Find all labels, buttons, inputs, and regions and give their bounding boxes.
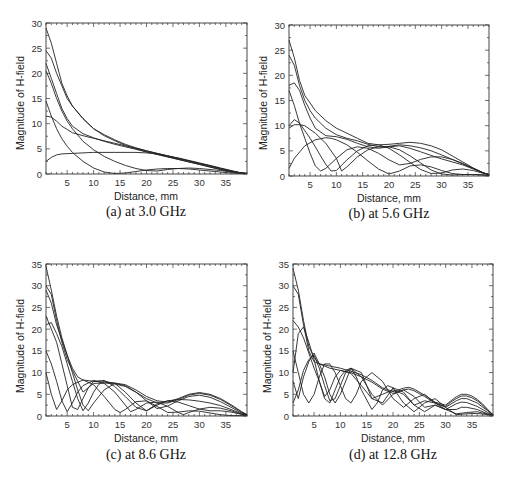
x-tick-label: 35 xyxy=(463,179,474,190)
curve-6 xyxy=(293,353,493,415)
x-tick-label: 10 xyxy=(88,419,99,430)
y-tick-label: 0 xyxy=(37,411,42,422)
x-tick-label: 30 xyxy=(194,177,205,188)
curve-1 xyxy=(289,40,489,174)
curve-4 xyxy=(293,327,493,415)
curve-4 xyxy=(289,90,489,174)
x-tick-label: 20 xyxy=(384,179,395,190)
y-tick-label: 15 xyxy=(274,95,285,106)
y-axis-label-c: Magnitude of H-field xyxy=(14,263,26,393)
y-tick-label: 20 xyxy=(274,70,285,81)
y-tick-label: 5 xyxy=(284,389,289,400)
curve-3 xyxy=(46,63,247,173)
y-tick-label: 15 xyxy=(31,93,42,104)
x-tick-label: 25 xyxy=(168,177,179,188)
y-tick-label: 10 xyxy=(278,367,289,378)
x-tick-label: 5 xyxy=(311,419,316,430)
x-tick-label: 25 xyxy=(410,179,421,190)
curve-2 xyxy=(293,286,493,415)
plot-b: 5101520253035051015202530 xyxy=(255,0,511,240)
panel-d: 510152025303505101520253035 Magnitude of… xyxy=(255,245,511,479)
y-tick-label: 35 xyxy=(31,259,42,270)
panel-b: 5101520253035051015202530 Magnitude of H… xyxy=(255,0,511,240)
y-tick-label: 20 xyxy=(31,324,42,335)
y-tick-label: 10 xyxy=(31,118,42,129)
x-tick-label: 35 xyxy=(221,177,232,188)
curve-6 xyxy=(46,116,247,173)
y-axis-label-d: Magnitude of H-field xyxy=(261,263,273,393)
y-tick-label: 30 xyxy=(31,18,42,29)
y-tick-label: 25 xyxy=(278,302,289,313)
x-tick-label: 25 xyxy=(168,419,179,430)
x-tick-label: 20 xyxy=(388,419,399,430)
plot-frame xyxy=(46,23,247,174)
x-tick-label: 10 xyxy=(331,179,342,190)
y-tick-label: 0 xyxy=(284,411,289,422)
x-tick-label: 15 xyxy=(357,179,368,190)
curve-6 xyxy=(289,125,489,176)
caption-d: (d) at 12.8 GHz xyxy=(333,447,453,463)
y-tick-label: 5 xyxy=(37,143,42,154)
x-tick-label: 25 xyxy=(414,419,425,430)
y-tick-label: 25 xyxy=(31,302,42,313)
x-axis-label-c: Distance, mm xyxy=(96,432,196,444)
y-tick-label: 20 xyxy=(278,324,289,335)
x-axis-label-d: Distance, mm xyxy=(343,432,443,444)
y-tick-label: 30 xyxy=(278,280,289,291)
x-tick-label: 15 xyxy=(115,419,126,430)
curve-5 xyxy=(293,351,493,415)
y-tick-label: 10 xyxy=(274,120,285,131)
y-tick-label: 25 xyxy=(31,43,42,54)
x-tick-label: 35 xyxy=(221,419,232,430)
y-tick-label: 0 xyxy=(280,171,285,182)
x-tick-label: 30 xyxy=(436,179,447,190)
x-tick-label: 5 xyxy=(65,177,70,188)
x-tick-label: 15 xyxy=(115,177,126,188)
curve-5 xyxy=(46,101,247,174)
y-tick-label: 15 xyxy=(31,345,42,356)
curve-3 xyxy=(289,83,489,175)
y-tick-label: 15 xyxy=(278,345,289,356)
y-tick-label: 5 xyxy=(280,145,285,156)
x-tick-label: 30 xyxy=(194,419,205,430)
y-tick-label: 0 xyxy=(37,169,42,180)
y-axis-label-a: Magnitude of H-field xyxy=(14,20,26,150)
x-tick-label: 10 xyxy=(335,419,346,430)
panel-a: 5101520253035051015202530 Magnitude of H… xyxy=(0,0,255,240)
x-tick-label: 5 xyxy=(65,419,70,430)
y-axis-label-b: Magnitude of H-field xyxy=(257,20,269,150)
y-tick-label: 25 xyxy=(274,45,285,56)
x-tick-label: 10 xyxy=(88,177,99,188)
y-tick-label: 30 xyxy=(274,20,285,31)
x-axis-label-b: Distance, mm xyxy=(339,192,439,204)
y-tick-label: 10 xyxy=(31,367,42,378)
caption-b: (b) at 5.6 GHz xyxy=(329,206,449,222)
x-tick-label: 30 xyxy=(440,419,451,430)
y-tick-label: 30 xyxy=(31,280,42,291)
curve-4 xyxy=(46,71,247,174)
x-tick-label: 20 xyxy=(141,419,152,430)
x-tick-label: 20 xyxy=(141,177,152,188)
x-tick-label: 35 xyxy=(467,419,478,430)
x-tick-label: 15 xyxy=(361,419,372,430)
caption-c: (c) at 8.6 GHz xyxy=(86,447,206,463)
x-axis-label-a: Distance, mm xyxy=(96,190,196,202)
y-tick-label: 35 xyxy=(278,259,289,270)
x-tick-label: 5 xyxy=(307,179,312,190)
y-tick-label: 5 xyxy=(37,389,42,400)
curve-2 xyxy=(289,55,489,174)
caption-a: (a) at 3.0 GHz xyxy=(86,204,206,220)
y-tick-label: 20 xyxy=(31,68,42,79)
panel-c: 510152025303505101520253035 Magnitude of… xyxy=(0,245,255,479)
